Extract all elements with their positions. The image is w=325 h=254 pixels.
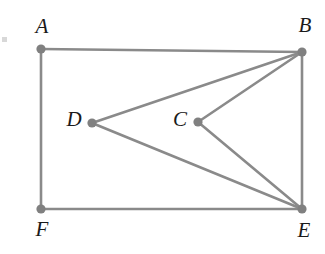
vertex-label-b: B (299, 13, 312, 37)
vertex-dot-a (36, 44, 45, 53)
vertex-label-f: F (35, 217, 49, 241)
vertex-dot-f (36, 204, 45, 213)
left-edge-artifact (2, 37, 7, 42)
vertex-dot-e (297, 204, 306, 213)
vertex-dot-d (87, 118, 96, 127)
figure-svg: ABCDEF (0, 0, 325, 254)
vertex-dot-c (193, 117, 202, 126)
edge-c-b (198, 52, 302, 122)
vertex-label-d: D (65, 107, 81, 131)
vertex-labels-group: ABCDEF (34, 13, 312, 242)
geometry-figure: ABCDEF (0, 0, 325, 254)
vertex-label-c: C (173, 107, 188, 131)
vertex-label-e: E (297, 218, 311, 242)
edge-c-e (198, 122, 302, 209)
edge-d-b (92, 52, 302, 123)
vertex-dot-b (297, 47, 306, 56)
edge-d-e (92, 123, 302, 209)
edge-a-b (41, 49, 302, 52)
vertex-label-a: A (34, 14, 49, 38)
